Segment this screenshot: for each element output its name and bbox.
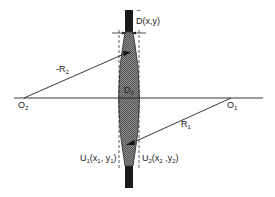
center-thickness-label: D0	[124, 86, 134, 95]
center-o2-subscript: 2	[25, 105, 28, 111]
radius-r2-text: -R	[56, 64, 66, 74]
plane-u1-x-subscript: 1	[97, 158, 100, 164]
plane-u1-subscript: 1	[87, 158, 90, 164]
center-o1-label: O1	[227, 101, 237, 110]
center-thickness-text: D	[124, 85, 131, 95]
plane-u1-label: U1(x1, y1)	[80, 154, 117, 163]
center-o2-text: O	[18, 100, 25, 110]
center-o1-text: O	[227, 100, 234, 110]
radius-r1-label: R1	[181, 120, 191, 129]
plane-u2-subscript: 2	[149, 158, 152, 164]
plane-u1-coords-mid: , y	[101, 153, 111, 163]
radius-r2-line	[24, 54, 124, 98]
thickness-label: ‾ D(x,y)	[136, 17, 160, 26]
center-thickness-subscript: 0	[131, 90, 134, 96]
plane-u2-coords-mid: ,y	[163, 153, 173, 163]
lens-diagram-svg	[0, 0, 275, 197]
plane-u1-y-subscript: 1	[110, 158, 113, 164]
radius-r1-subscript: 1	[188, 124, 191, 130]
center-o1-subscript: 1	[234, 105, 237, 111]
top-mount-bar	[125, 10, 133, 32]
radius-r2-label: -R2	[56, 65, 69, 74]
plane-u2-label: U2(x2 ,y2)	[142, 154, 179, 163]
plane-u2-y-subscript: 2	[172, 158, 175, 164]
radius-r2-subscript: 2	[66, 69, 69, 75]
bottom-mount-bar	[125, 164, 133, 188]
plane-u2-text: U	[142, 153, 149, 163]
lens-diagram: ‾ D(x,y) D0 -R2 R1 O2 O1 U1(x1, y1) U2(x…	[0, 0, 275, 197]
overbar: ‾	[137, 11, 140, 20]
plane-u1-text: U	[80, 153, 87, 163]
radius-r1-text: R	[181, 119, 188, 129]
center-o2-label: O2	[18, 101, 28, 110]
plane-u2-x-subscript: 2	[159, 158, 162, 164]
